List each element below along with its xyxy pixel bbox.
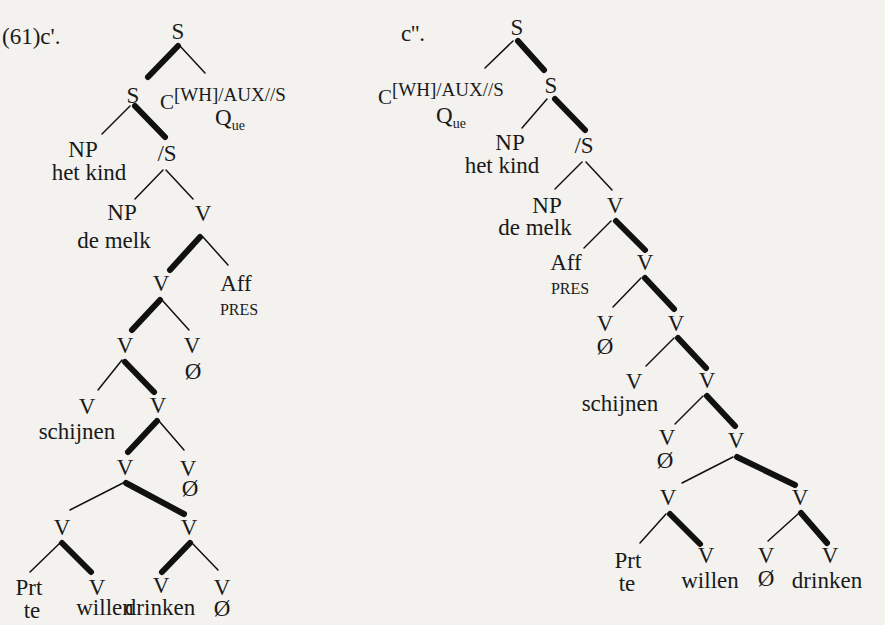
scanned-page: (61)c'. S S C[WH]/AUX//S Que NP het kind…	[0, 0, 885, 625]
example-label: (61)c'.	[2, 25, 60, 48]
word-te: te	[619, 572, 636, 595]
node-slash-s: /S	[574, 134, 593, 157]
node-slash-s: /S	[157, 142, 176, 165]
word-het-kind: het kind	[52, 161, 127, 184]
node-v: V	[184, 334, 201, 357]
word-schijnen: schijnen	[582, 392, 659, 415]
node-v: V	[660, 486, 677, 509]
node-aff: Aff	[550, 251, 582, 274]
node-v: V	[728, 429, 745, 452]
node-v: V	[822, 544, 839, 567]
word-het-kind: het kind	[465, 154, 540, 177]
q-label: Q	[215, 105, 232, 130]
node-v: V	[792, 486, 809, 509]
node-v: V	[699, 369, 716, 392]
node-aff: Aff	[220, 272, 252, 295]
word-null: Ø	[758, 567, 775, 590]
node-v: V	[117, 456, 134, 479]
word-null: Ø	[185, 360, 202, 383]
node-np: NP	[532, 194, 561, 217]
word-null: Ø	[214, 597, 231, 620]
word-pres: PRES	[551, 281, 589, 297]
word-te: te	[24, 599, 41, 622]
node-v: V	[195, 202, 212, 225]
node-v: V	[659, 426, 676, 449]
word-drinken: drinken	[792, 569, 862, 592]
word-schijnen: schijnen	[39, 420, 116, 443]
comp-features: [WH]/AUX//S	[174, 84, 286, 105]
node-v: V	[626, 370, 643, 393]
node-s: S	[127, 84, 140, 107]
node-v: V	[153, 574, 170, 597]
node-v: V	[698, 544, 715, 567]
word-willen: willen	[681, 569, 739, 592]
node-v: V	[637, 251, 654, 274]
q-subscript: ue	[232, 118, 245, 133]
q-label: Q	[436, 103, 453, 128]
word-de-melk: de melk	[498, 216, 571, 239]
node-np: NP	[495, 131, 524, 154]
example-label: c''.	[401, 22, 425, 45]
node-prt: Prt	[615, 549, 642, 572]
comp-c: C	[378, 85, 392, 109]
node-v: V	[153, 272, 170, 295]
q-subscript: ue	[453, 116, 466, 131]
node-v: V	[54, 516, 71, 539]
node-v: V	[758, 544, 775, 567]
word-de-melk: de melk	[77, 229, 150, 252]
node-v: V	[150, 394, 167, 417]
node-v: V	[79, 395, 96, 418]
node-v: V	[607, 194, 624, 217]
word-null: Ø	[182, 477, 199, 500]
node-np: NP	[68, 138, 97, 161]
node-np: NP	[107, 201, 136, 224]
node-s-root: S	[172, 20, 185, 43]
node-q: Que	[215, 106, 245, 133]
word-pres: PRES	[220, 302, 258, 318]
word-null: Ø	[657, 449, 674, 472]
word-null: Ø	[597, 335, 614, 358]
comp-features: [WH]/AUX//S	[392, 79, 504, 100]
node-q: Que	[436, 104, 466, 131]
node-s: S	[545, 74, 558, 97]
node-v: V	[181, 516, 198, 539]
node-v: V	[597, 312, 614, 335]
node-s-root: S	[511, 16, 524, 39]
comp-c: C	[160, 90, 174, 114]
node-prt: Prt	[16, 576, 43, 599]
node-v: V	[668, 312, 685, 335]
node-v: V	[117, 334, 134, 357]
word-drinken: drinken	[125, 596, 195, 619]
